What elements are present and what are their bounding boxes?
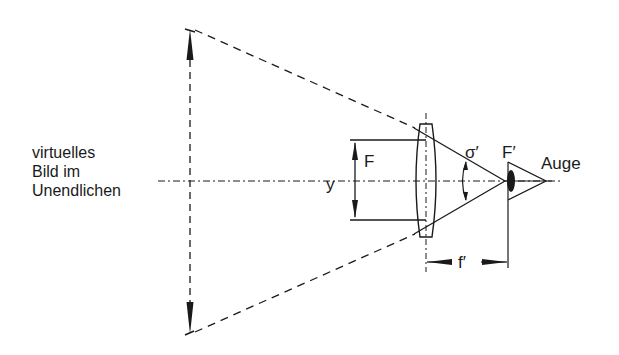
virtual-image-arrow	[185, 29, 195, 335]
object-arrow	[350, 140, 426, 220]
eye-label: Auge	[541, 154, 581, 173]
virtual-image-label-3: Unendlichen	[32, 182, 121, 199]
object-height-label: y	[326, 175, 335, 194]
magnifier-diagram: virtuelles Bild im Unendlichen F y σ′ F′…	[0, 0, 619, 355]
ray-bottom	[414, 181, 505, 234]
virtual-ray-top	[195, 30, 415, 128]
virtual-image-label-2: Bild im	[32, 163, 80, 180]
focal-length-dimension	[427, 259, 507, 265]
ray-top	[414, 128, 505, 181]
angle-label: σ′	[465, 143, 479, 162]
focal-length-label: f′	[458, 253, 466, 272]
focal-point-label: F′	[502, 143, 516, 162]
eye-icon	[505, 162, 552, 268]
virtual-image-label-1: virtuelles	[32, 144, 95, 161]
object-label: F	[364, 152, 374, 171]
virtual-ray-bottom	[195, 234, 415, 332]
